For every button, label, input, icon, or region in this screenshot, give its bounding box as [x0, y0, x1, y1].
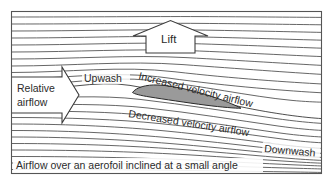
- aerofoil-airflow-figure: Lift Relative airflow Upwash Increased v…: [0, 0, 334, 184]
- relative-airflow-label-line2: airflow: [17, 96, 48, 108]
- caption-group: Airflow over an aerofoil inclined at a s…: [13, 158, 263, 172]
- upwash-label: Upwash: [84, 72, 122, 84]
- relative-airflow-label-line1: Relative: [17, 82, 55, 94]
- lift-label-group: Lift: [157, 32, 187, 45]
- lift-label: Lift: [161, 33, 177, 45]
- figure-caption: Airflow over an aerofoil inclined at a s…: [16, 159, 238, 171]
- figure-canvas: Lift Relative airflow Upwash Increased v…: [0, 0, 334, 184]
- upwash-label-group: Upwash: [82, 72, 130, 84]
